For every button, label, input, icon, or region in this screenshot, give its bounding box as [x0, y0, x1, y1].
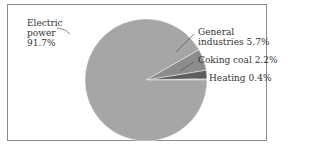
pie-slice-electric-power [85, 19, 207, 141]
label-general-line1: General [198, 27, 269, 37]
label-coking-value: 2.2% [255, 55, 278, 65]
label-heating-name: Heating [209, 73, 246, 83]
label-heating-value: 0.4% [249, 73, 272, 83]
label-electric-value: 91.7% [27, 38, 63, 48]
label-electric-line2: power [27, 28, 63, 38]
label-general-industries: General industries5.7% [198, 27, 269, 47]
label-electric-power: Electric power 91.7% [27, 18, 63, 48]
label-electric-line1: Electric [27, 18, 63, 28]
label-heating: Heating0.4% [209, 73, 271, 83]
label-general-line2: industries [198, 37, 244, 47]
pie-slices [85, 19, 207, 141]
label-coking-name: Coking coal [198, 55, 252, 65]
label-general-value: 5.7% [247, 37, 270, 47]
label-coking-coal: Coking coal2.2% [198, 55, 278, 65]
